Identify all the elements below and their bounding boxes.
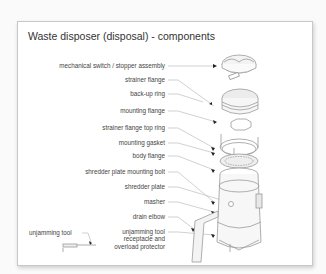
diagram-panel: Waste disposer (disposal) - components m… [17,21,313,266]
mounting-flange-part [231,119,251,130]
leader-lines [82,66,228,242]
body-part [217,168,262,252]
drain-elbow-part [192,211,218,262]
exploded-diagram [18,22,312,265]
strainer-flange-part [222,89,258,114]
top-ring-part [220,134,258,156]
unjamming-tool-part [63,244,96,252]
parts [63,55,262,262]
stopper-part [222,55,256,80]
gasket-part [220,154,258,168]
